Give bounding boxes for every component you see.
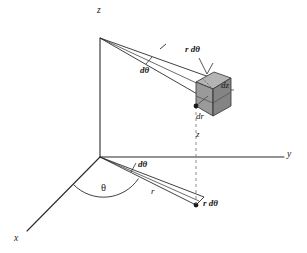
x-axis-line <box>27 157 100 231</box>
element-corner-marker <box>194 104 199 109</box>
y-axis-label: y <box>287 150 291 160</box>
r-dtheta-bottom-label: r dθ <box>203 199 218 208</box>
cylindrical-coordinates-figure: z y x r dθ dθ dz dr z dθ r θ r dθ <box>0 0 307 253</box>
dz-label: dz <box>221 81 229 90</box>
dr-label: dr <box>196 112 204 121</box>
dtheta-top-label: dθ <box>140 66 149 75</box>
dtheta-bottom-label: dθ <box>138 160 147 169</box>
diagram-canvas <box>0 0 307 253</box>
floor-wedge <box>100 157 204 205</box>
z-axis-label: z <box>97 6 101 16</box>
r-dtheta-top-label: r dθ <box>185 45 200 54</box>
wedge-tick-mark <box>160 44 166 49</box>
x-axis-label: x <box>14 234 18 244</box>
z-height-label: z <box>196 130 200 139</box>
volume-element-box <box>196 72 231 116</box>
r-radius-label: r <box>151 187 155 196</box>
theta-label: θ <box>101 183 106 194</box>
r-dtheta-leader <box>199 58 213 74</box>
